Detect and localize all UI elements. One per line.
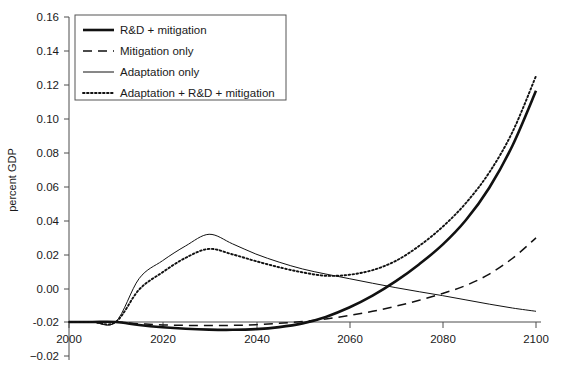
y-tick: 0.08 [37,147,69,159]
y-tick-label: 0.16 [37,11,59,23]
y-tick-label: 0.14 [37,45,60,57]
y-tick: 0.00 [37,283,69,295]
y-tick-label: 0.02 [37,249,59,261]
y-tick-label: 0.04 [37,215,60,227]
y-tick: 0.04 [37,215,69,227]
x-tick: 2000 [56,322,82,345]
x-tick: 2100 [523,322,549,345]
y-axis-label: percent GDP [6,148,18,212]
legend: R&D + mitigation Mitigation only Adaptat… [75,15,286,100]
y-axis-ticks: 0.16 0.14 0.12 0.10 0.08 0.06 0.04 0.02 … [30,11,69,362]
y-tick-label: 0.10 [37,113,59,125]
x-tick: 2080 [430,322,456,345]
y-tick: −0.02 [30,350,69,362]
y-tick: 0.02 [37,249,69,261]
y-tick: 0.14 [37,45,69,57]
x-tick-label: 2000 [56,333,82,345]
y-tick: 0.10 [37,113,69,125]
series-line-adaptation-rd-mitigation [69,76,536,324]
y-tick: 0.16 [37,11,69,23]
x-tick-label: 2040 [244,333,270,345]
x-axis-ticks: 2000 2020 2040 2060 2080 2100 [56,322,549,345]
series-line-adaptation-only [69,234,536,325]
y-tick-label: 0.12 [37,79,59,91]
y-tick-label: 0.06 [37,181,59,193]
y-tick-label-neg: −0.02 [30,350,59,362]
series-line-mitigation-only [69,238,536,326]
x-tick-label: 2020 [150,333,176,345]
legend-label: Adaptation + R&D + mitigation [120,87,275,99]
y-tick-label: 0.00 [37,283,59,295]
x-tick-label: 2060 [337,333,363,345]
legend-label: Mitigation only [120,45,194,57]
series-group [69,76,536,330]
y-tick: -0.02 [33,316,69,328]
x-tick-label: 2080 [430,333,456,345]
x-tick: 2060 [337,322,363,345]
y-tick-label: -0.02 [33,316,59,328]
y-tick: 0.06 [37,181,69,193]
legend-label: Adaptation only [120,66,200,78]
x-tick: 2040 [244,322,270,345]
chart-figure: percent GDP 0.16 0.14 0.12 0.10 0.08 0.0… [0,0,565,378]
x-tick-label: 2100 [523,333,549,345]
y-tick-label: 0.08 [37,147,59,159]
legend-label: R&D + mitigation [120,24,207,36]
series-line-rd-mitigation [69,91,536,330]
y-tick: 0.12 [37,79,69,91]
